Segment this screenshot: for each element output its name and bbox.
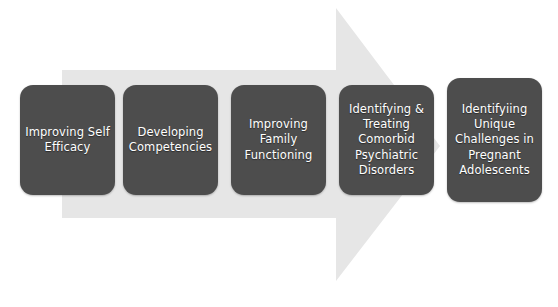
stage-label-3: Improving Family Functioning xyxy=(236,117,321,163)
process-diagram: Improving Self Efficacy Developing Compe… xyxy=(0,0,558,307)
stage-label-5: Identifyiing Unique Challenges in Pregna… xyxy=(452,102,537,178)
stage-label-4: Identifying & Treating Comorbid Psychiat… xyxy=(344,102,429,178)
stage-box-1[interactable]: Improving Self Efficacy xyxy=(20,85,115,195)
stage-label-1: Improving Self Efficacy xyxy=(25,125,110,155)
stage-box-4[interactable]: Identifying & Treating Comorbid Psychiat… xyxy=(339,85,434,195)
stage-box-2[interactable]: Developing Competencies xyxy=(123,85,218,195)
stage-label-2: Developing Competencies xyxy=(128,125,213,155)
stage-box-5[interactable]: Identifyiing Unique Challenges in Pregna… xyxy=(447,78,542,202)
stage-box-3[interactable]: Improving Family Functioning xyxy=(231,85,326,195)
